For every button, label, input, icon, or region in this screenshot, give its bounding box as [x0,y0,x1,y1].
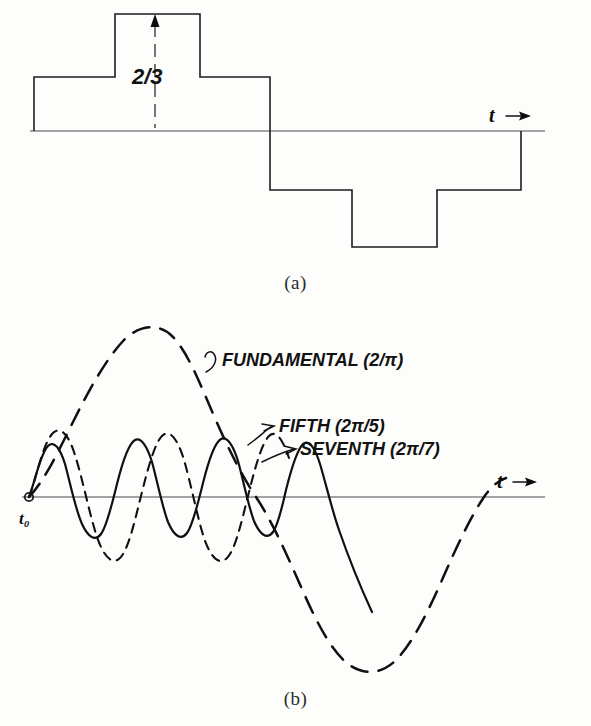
dimension-value-label: 2/3 [131,64,163,89]
panel-b-caption: (b) [0,688,591,710]
origin-label: t₀ [19,509,30,528]
curve-fundamental [29,327,506,672]
panel-a-caption: (a) [0,272,591,294]
annotation-fundamental: FUNDAMENTAL (2/π) [205,350,403,372]
panel-a-axis-label: t [489,104,496,126]
dimension-arrow-icon [151,14,160,27]
curve-fifth-harmonic [29,430,289,561]
panel-b-right-arrow-icon [513,478,537,487]
panel-b-axis-label: t [497,470,504,492]
panel-b-chart: t₀ FUNDAMENTAL (2/π) FIFTH (2π/5) SEVENT… [0,312,591,722]
annotation-fundamental-label: FUNDAMENTAL (2/π) [222,350,403,370]
annotation-seventh-label: SEVENTH (2π/7) [300,439,440,459]
panel-a-right-arrow-icon [506,112,531,121]
panel-a-chart: 2/3 t [0,0,591,270]
annotation-fifth-label: FIFTH (2π/5) [279,416,385,436]
figure-container: 2/3 t (a) t₀ FUNDAMENTAL (2/π) FIFTH (2 [0,0,591,726]
